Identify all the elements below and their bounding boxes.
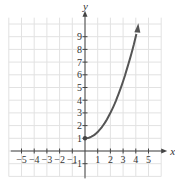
svg-text:5: 5 [77,82,82,93]
y-axis-label: y [82,0,88,12]
start-point [83,136,87,140]
svg-text:4: 4 [133,154,138,165]
svg-text:3: 3 [77,107,82,118]
svg-text:6: 6 [77,69,82,80]
x-axis-label: x [169,145,175,157]
svg-text:4: 4 [77,95,82,106]
svg-text:5: 5 [146,154,151,165]
svg-text:−5: −5 [16,154,27,165]
svg-text:7: 7 [77,57,82,68]
svg-text:1: 1 [95,154,100,165]
curve-arrowhead [134,23,140,33]
svg-text:−3: −3 [42,154,53,165]
svg-text:2: 2 [108,154,113,165]
svg-text:9: 9 [77,31,82,42]
svg-text:8: 8 [77,44,82,55]
svg-text:2: 2 [77,120,82,131]
svg-text:3: 3 [121,154,126,165]
svg-text:−2: −2 [54,154,65,165]
svg-text:1: 1 [77,133,82,144]
svg-text:−1: −1 [71,158,82,169]
graph: −5−4−3−2−112345−1123456789 x y [0,0,175,185]
svg-text:−4: −4 [29,154,40,165]
